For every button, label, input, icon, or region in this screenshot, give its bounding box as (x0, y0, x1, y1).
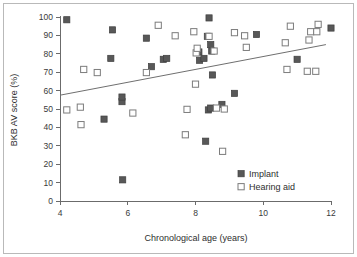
y-tick-label: 80 (44, 49, 54, 59)
point-hearing-aid (64, 107, 70, 113)
point-hearing-aid (306, 37, 312, 43)
plot-area: 0102030405060708090100 4681012 ImplantHe… (0, 0, 357, 257)
point-hearing-aid (206, 33, 212, 39)
point-implant (109, 27, 115, 33)
point-hearing-aid (315, 21, 321, 27)
point-hearing-aid (143, 69, 149, 75)
x-tick-label: 8 (193, 208, 198, 218)
point-hearing-aid (81, 66, 87, 72)
point-hearing-aid (191, 29, 197, 35)
point-implant (101, 116, 107, 122)
y-axis-title: BKB AV score (%) (9, 74, 19, 146)
point-hearing-aid (231, 30, 237, 36)
legend-swatch-hearing-aid (238, 184, 244, 190)
legend-label-implant: Implant (249, 169, 279, 179)
point-hearing-aid (172, 33, 178, 39)
point-implant (294, 56, 300, 62)
point-implant (253, 31, 259, 37)
point-implant (148, 64, 154, 70)
point-hearing-aid (220, 148, 226, 154)
y-tick-label: 50 (44, 104, 54, 114)
legend-label-hearing-aid: Hearing aid (249, 182, 295, 192)
point-hearing-aid (182, 132, 188, 138)
point-hearing-aid (211, 48, 217, 54)
point-hearing-aid (194, 45, 200, 51)
data-points (64, 15, 334, 183)
x-axis: 4681012 (58, 201, 336, 218)
scatter-chart-figure: 0102030405060708090100 4681012 ImplantHe… (0, 0, 357, 257)
x-tick-label: 6 (125, 208, 130, 218)
y-tick-label: 70 (44, 67, 54, 77)
y-tick-label: 100 (39, 12, 53, 22)
point-implant (143, 35, 149, 41)
y-tick-label: 10 (44, 178, 54, 188)
chart-legend: ImplantHearing aid (238, 169, 295, 192)
point-implant (119, 94, 125, 100)
x-axis-title: Chronological age (years) (144, 233, 247, 243)
y-axis: 0102030405060708090100 (39, 12, 60, 206)
point-hearing-aid (94, 69, 100, 75)
point-implant (203, 138, 209, 144)
y-tick-label: 30 (44, 141, 54, 151)
x-tick-label: 4 (58, 208, 63, 218)
point-hearing-aid (287, 23, 293, 29)
point-hearing-aid (213, 105, 219, 111)
point-implant (231, 90, 237, 96)
point-implant (164, 55, 170, 61)
point-implant (108, 55, 114, 61)
point-implant (201, 55, 207, 61)
y-tick-label: 0 (48, 196, 53, 206)
point-implant (64, 17, 70, 23)
point-implant (208, 42, 214, 48)
y-tick-label: 90 (44, 30, 54, 40)
y-tick-label: 60 (44, 86, 54, 96)
point-hearing-aid (304, 68, 310, 74)
point-hearing-aid (77, 104, 83, 110)
point-hearing-aid (130, 110, 136, 116)
x-tick-label: 10 (259, 208, 269, 218)
point-hearing-aid (308, 29, 314, 35)
point-hearing-aid (282, 40, 288, 46)
point-implant (209, 72, 215, 78)
point-hearing-aid (184, 106, 190, 112)
point-hearing-aid (221, 106, 227, 112)
point-hearing-aid (192, 81, 198, 87)
point-hearing-aid (314, 29, 320, 35)
point-implant (206, 15, 212, 21)
legend-swatch-implant (238, 171, 244, 177)
point-hearing-aid (78, 122, 84, 128)
point-hearing-aid (155, 22, 161, 28)
y-tick-label: 40 (44, 122, 54, 132)
point-hearing-aid (313, 68, 319, 74)
point-hearing-aid (284, 66, 290, 72)
x-tick-label: 12 (326, 208, 336, 218)
point-hearing-aid (242, 33, 248, 39)
point-implant (120, 177, 126, 183)
point-hearing-aid (243, 44, 249, 50)
point-implant (328, 25, 334, 31)
y-tick-label: 20 (44, 159, 54, 169)
